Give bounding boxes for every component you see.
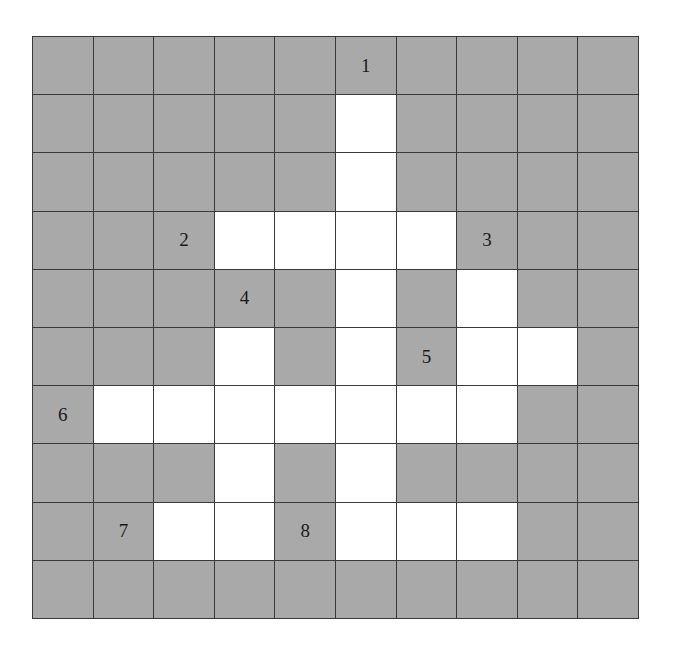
blocked-cell xyxy=(33,270,93,327)
blocked-cell xyxy=(154,561,214,618)
blocked-cell xyxy=(518,386,578,443)
open-cell[interactable] xyxy=(215,386,275,443)
open-cell[interactable] xyxy=(397,386,457,443)
clue-number: 8 xyxy=(300,520,310,542)
blocked-cell: 6 xyxy=(33,386,93,443)
blocked-cell xyxy=(154,37,214,94)
blocked-cell xyxy=(518,153,578,210)
open-cell[interactable] xyxy=(215,212,275,269)
blocked-cell xyxy=(275,328,335,385)
blocked-cell xyxy=(518,95,578,152)
blocked-cell xyxy=(154,444,214,501)
blocked-cell xyxy=(518,561,578,618)
blocked-cell xyxy=(94,328,154,385)
blocked-cell xyxy=(518,212,578,269)
clue-number: 1 xyxy=(361,55,371,77)
open-cell[interactable] xyxy=(336,386,396,443)
blocked-cell xyxy=(275,153,335,210)
blocked-cell xyxy=(94,561,154,618)
blocked-cell xyxy=(215,37,275,94)
blocked-cell xyxy=(578,153,638,210)
blocked-cell xyxy=(94,37,154,94)
blocked-cell xyxy=(33,503,93,560)
clue-number: 4 xyxy=(240,287,250,309)
crossword-grid: 12345678 xyxy=(32,36,639,619)
blocked-cell xyxy=(275,561,335,618)
blocked-cell xyxy=(94,212,154,269)
blocked-cell xyxy=(275,37,335,94)
blocked-cell xyxy=(578,212,638,269)
blocked-cell: 2 xyxy=(154,212,214,269)
open-cell[interactable] xyxy=(336,212,396,269)
blocked-cell xyxy=(578,95,638,152)
blocked-cell xyxy=(397,444,457,501)
blocked-cell xyxy=(457,95,517,152)
open-cell[interactable] xyxy=(275,212,335,269)
blocked-cell xyxy=(33,153,93,210)
blocked-cell xyxy=(457,37,517,94)
open-cell[interactable] xyxy=(336,95,396,152)
blocked-cell xyxy=(33,37,93,94)
blocked-cell xyxy=(33,561,93,618)
blocked-cell xyxy=(94,95,154,152)
blocked-cell: 1 xyxy=(336,37,396,94)
blocked-cell xyxy=(336,561,396,618)
blocked-cell xyxy=(275,95,335,152)
blocked-cell xyxy=(397,95,457,152)
open-cell[interactable] xyxy=(336,328,396,385)
open-cell[interactable] xyxy=(457,270,517,327)
blocked-cell xyxy=(578,37,638,94)
open-cell[interactable] xyxy=(215,503,275,560)
blocked-cell xyxy=(457,153,517,210)
open-cell[interactable] xyxy=(336,444,396,501)
blocked-cell xyxy=(397,561,457,618)
open-cell[interactable] xyxy=(275,386,335,443)
open-cell[interactable] xyxy=(336,270,396,327)
blocked-cell xyxy=(518,37,578,94)
blocked-cell xyxy=(154,270,214,327)
open-cell[interactable] xyxy=(336,503,396,560)
open-cell[interactable] xyxy=(154,386,214,443)
blocked-cell xyxy=(578,503,638,560)
blocked-cell xyxy=(94,270,154,327)
blocked-cell xyxy=(518,270,578,327)
blocked-cell xyxy=(33,212,93,269)
blocked-cell xyxy=(578,386,638,443)
blocked-cell xyxy=(578,444,638,501)
open-cell[interactable] xyxy=(457,328,517,385)
open-cell[interactable] xyxy=(457,503,517,560)
open-cell[interactable] xyxy=(397,503,457,560)
blocked-cell: 4 xyxy=(215,270,275,327)
blocked-cell xyxy=(154,95,214,152)
open-cell[interactable] xyxy=(336,153,396,210)
open-cell[interactable] xyxy=(215,328,275,385)
blocked-cell xyxy=(275,444,335,501)
blocked-cell: 5 xyxy=(397,328,457,385)
blocked-cell xyxy=(518,444,578,501)
open-cell[interactable] xyxy=(94,386,154,443)
blocked-cell xyxy=(275,270,335,327)
blocked-cell xyxy=(33,328,93,385)
open-cell[interactable] xyxy=(397,212,457,269)
open-cell[interactable] xyxy=(154,503,214,560)
blocked-cell xyxy=(154,153,214,210)
blocked-cell xyxy=(215,153,275,210)
blocked-cell xyxy=(457,561,517,618)
blocked-cell: 7 xyxy=(94,503,154,560)
clue-number: 2 xyxy=(179,229,189,251)
blocked-cell xyxy=(33,444,93,501)
blocked-cell xyxy=(33,95,93,152)
clue-number: 3 xyxy=(482,229,492,251)
blocked-cell xyxy=(94,444,154,501)
blocked-cell xyxy=(578,328,638,385)
blocked-cell xyxy=(397,270,457,327)
blocked-cell xyxy=(215,95,275,152)
blocked-cell: 8 xyxy=(275,503,335,560)
open-cell[interactable] xyxy=(215,444,275,501)
open-cell[interactable] xyxy=(457,386,517,443)
blocked-cell xyxy=(518,503,578,560)
blocked-cell xyxy=(397,37,457,94)
blocked-cell: 3 xyxy=(457,212,517,269)
blocked-cell xyxy=(578,270,638,327)
open-cell[interactable] xyxy=(518,328,578,385)
